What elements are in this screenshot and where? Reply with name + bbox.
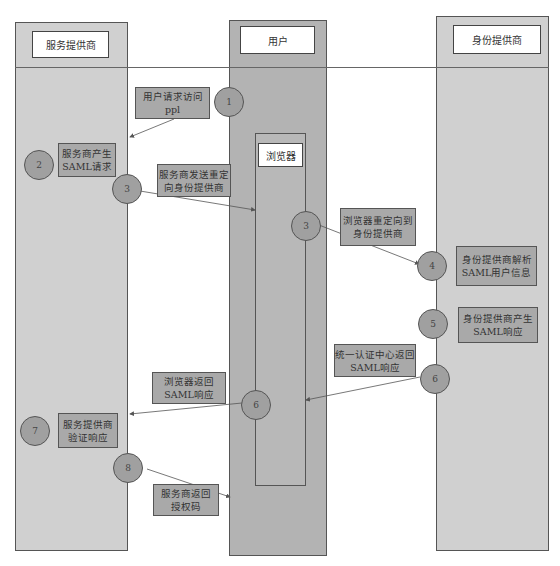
note-step-3a: 服务商发送重定 向身份提供商 xyxy=(157,164,231,197)
note-step-6a: 统一认证中心返回 SAML响应 xyxy=(334,344,416,377)
arrow-6b xyxy=(130,403,242,414)
arrow-6a xyxy=(306,377,420,400)
note-step-2: 服务商产生 SAML请求 xyxy=(58,143,116,177)
note-step-8: 服务商返回 授权码 xyxy=(153,484,219,516)
note-step-1: 用户请求访问 ppl xyxy=(135,87,210,119)
note-step-3b: 浏览器重定向到 身份提供商 xyxy=(340,208,416,246)
step-circle-7: 7 xyxy=(20,416,50,446)
step-circle-6b: 6 xyxy=(241,390,271,420)
step-circle-5: 5 xyxy=(418,309,448,339)
step-circle-3b: 3 xyxy=(291,211,321,241)
note-step-6b: 浏览器返回 SAML响应 xyxy=(152,372,226,404)
step-circle-8: 8 xyxy=(113,453,143,483)
step-circle-2: 2 xyxy=(24,150,54,180)
note-step-5: 身份提供商产生 SAML响应 xyxy=(458,307,538,343)
arrow-1 xyxy=(130,119,174,137)
step-circle-6a: 6 xyxy=(420,364,450,394)
note-step-4: 身份提供商解析 SAML用户信息 xyxy=(456,246,537,286)
step-circle-1: 1 xyxy=(214,87,244,117)
step-circle-4: 4 xyxy=(417,251,447,281)
step-circle-3a: 3 xyxy=(112,174,142,204)
note-step-7: 服务提供商 验证响应 xyxy=(58,413,118,448)
